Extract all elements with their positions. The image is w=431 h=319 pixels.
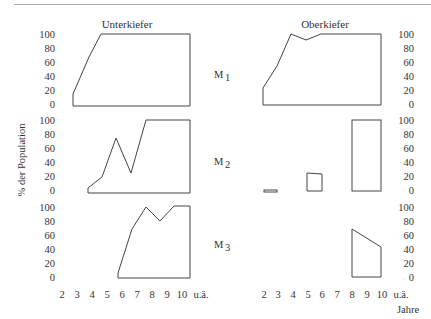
svg-text:2: 2	[261, 289, 266, 300]
svg-text:0: 0	[409, 185, 414, 196]
svg-text:4: 4	[89, 289, 95, 300]
svg-text:M: M	[214, 239, 224, 250]
svg-text:100: 100	[39, 115, 55, 126]
svg-text:60: 60	[404, 57, 415, 68]
svg-text:6: 6	[119, 289, 124, 300]
svg-text:5: 5	[104, 289, 109, 300]
svg-text:100: 100	[398, 29, 414, 40]
left-x-ticks: 2 3 4 5 6 7 8 9 10 u.ä.	[59, 289, 208, 300]
right-x-ticks: 2 3 4 5 6 7 8 9 10 u.ä.	[261, 289, 408, 300]
svg-text:60: 60	[45, 143, 56, 154]
x-axis-title: Jahre	[397, 304, 419, 315]
svg-text:0: 0	[50, 99, 55, 110]
column-title-unterkiefer: Unterkiefer	[102, 18, 153, 30]
svg-text:60: 60	[404, 143, 415, 154]
right-y-ticks-m1: 100 80 60 40 20 0	[398, 29, 414, 110]
panel-m2-unterkiefer	[88, 120, 190, 193]
svg-text:0: 0	[409, 99, 414, 110]
svg-text:0: 0	[409, 272, 414, 283]
panel-m1-oberkiefer	[263, 34, 381, 105]
svg-text:20: 20	[45, 85, 56, 96]
svg-text:40: 40	[45, 244, 56, 255]
svg-text:4: 4	[290, 289, 296, 300]
svg-text:10: 10	[177, 289, 188, 300]
row-label-m3: M 3	[214, 239, 230, 253]
svg-text:6: 6	[319, 289, 324, 300]
svg-text:7: 7	[134, 289, 139, 300]
svg-text:3: 3	[275, 289, 280, 300]
svg-text:1: 1	[225, 72, 230, 83]
right-y-ticks-m2: 100 80 60 40 20 0	[398, 115, 414, 196]
row-label-m2: M 2	[214, 156, 230, 170]
svg-text:40: 40	[45, 71, 56, 82]
svg-text:20: 20	[45, 258, 56, 269]
panel-m2-oberkiefer-bar-8-10	[352, 120, 381, 191]
svg-text:20: 20	[45, 171, 56, 182]
left-y-ticks-m3: 100 80 60 40 20 0	[39, 202, 55, 283]
svg-text:40: 40	[45, 157, 56, 168]
svg-text:0: 0	[50, 185, 55, 196]
svg-text:u.ä.: u.ä.	[393, 289, 408, 300]
svg-text:100: 100	[39, 202, 55, 213]
svg-text:M: M	[214, 156, 224, 167]
svg-text:2: 2	[59, 289, 64, 300]
svg-text:8: 8	[349, 289, 354, 300]
svg-text:M: M	[214, 69, 224, 80]
row-label-m1: M 1	[214, 69, 230, 83]
panel-m2-oberkiefer-bar-5	[307, 173, 322, 191]
svg-text:3: 3	[225, 242, 230, 253]
svg-text:2: 2	[225, 159, 230, 170]
svg-text:10: 10	[377, 289, 388, 300]
svg-text:20: 20	[404, 258, 415, 269]
left-y-ticks-m1: 100 80 60 40 20 0	[39, 29, 55, 110]
svg-text:60: 60	[45, 57, 56, 68]
svg-text:60: 60	[404, 230, 415, 241]
left-y-ticks-m2: 100 80 60 40 20 0	[39, 115, 55, 196]
panel-m1-unterkiefer	[73, 34, 190, 106]
svg-text:60: 60	[45, 230, 56, 241]
svg-text:100: 100	[398, 115, 414, 126]
chart-svg: Unterkiefer Oberkiefer % der Population …	[0, 0, 431, 319]
svg-text:3: 3	[74, 289, 79, 300]
svg-text:40: 40	[404, 157, 415, 168]
y-axis-title: % der Population	[16, 123, 27, 197]
svg-text:80: 80	[404, 43, 415, 54]
svg-text:u.ä.: u.ä.	[193, 289, 208, 300]
svg-text:0: 0	[50, 272, 55, 283]
svg-text:80: 80	[404, 216, 415, 227]
panel-m3-unterkiefer	[118, 206, 190, 278]
svg-text:7: 7	[334, 289, 339, 300]
svg-text:9: 9	[164, 289, 169, 300]
svg-text:5: 5	[305, 289, 310, 300]
right-y-ticks-m3: 100 80 60 40 20 0	[398, 202, 414, 283]
svg-text:40: 40	[404, 244, 415, 255]
svg-text:80: 80	[45, 129, 56, 140]
svg-text:8: 8	[149, 289, 154, 300]
column-title-oberkiefer: Oberkiefer	[301, 18, 349, 30]
svg-text:80: 80	[45, 216, 56, 227]
panel-m3-oberkiefer	[352, 229, 381, 277]
svg-text:80: 80	[404, 129, 415, 140]
svg-text:9: 9	[364, 289, 369, 300]
svg-text:20: 20	[404, 85, 415, 96]
panel-m2-oberkiefer-bar-3	[264, 190, 277, 192]
svg-text:100: 100	[398, 202, 414, 213]
svg-text:40: 40	[404, 71, 415, 82]
svg-text:20: 20	[404, 171, 415, 182]
svg-text:80: 80	[45, 43, 56, 54]
svg-text:100: 100	[39, 29, 55, 40]
